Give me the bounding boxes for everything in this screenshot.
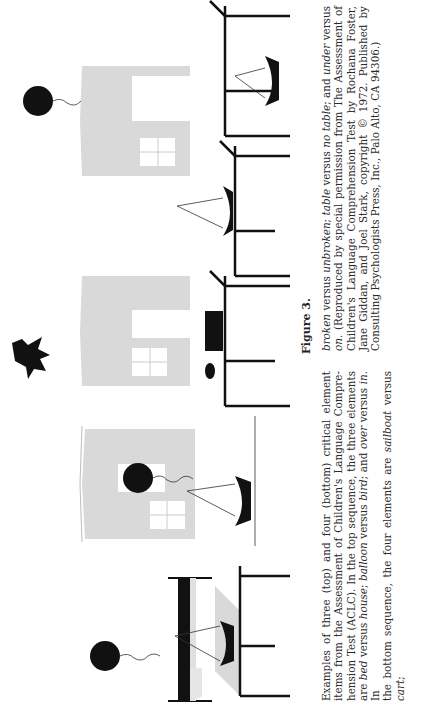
caption-line: items from the Assessment of Children's …	[332, 371, 344, 701]
caption-line: broken versus unbroken; table versus no …	[320, 6, 332, 351]
sailboat-drawing	[195, 406, 295, 546]
house-with-bird-drawing	[0, 256, 200, 396]
sailboat-icon	[265, 56, 279, 106]
panel-balloon-over-house	[0, 6, 200, 186]
cart-icon	[205, 311, 223, 351]
house-with-balloon-over-drawing	[0, 6, 200, 186]
panel-balloon-and-bed	[30, 556, 200, 706]
caption-line: Consulting Psychologists Press, Inc., Pa…	[369, 6, 381, 351]
balloon-icon	[90, 641, 120, 671]
sailboat-icon	[223, 186, 233, 236]
caption-left-column: Examples of three (top) and four (bottom…	[320, 371, 406, 701]
sailboat-under-table-drawing	[195, 0, 295, 136]
figure-label: Figure 3.	[300, 298, 313, 354]
cart-wheel-icon	[205, 363, 215, 379]
caption-line: are bed versus house; balloon versus bir…	[357, 371, 382, 701]
sailboat-icon	[235, 476, 251, 526]
panel-sailboat-over-table	[195, 136, 295, 276]
caption-right-column: broken versus unbroken; table versus no …	[320, 6, 381, 351]
caption-line: Jane Giddan, and Joel Stark, copyright ©…	[357, 6, 369, 351]
balloon-icon	[123, 463, 153, 493]
panel-balloon-in-house	[0, 414, 200, 554]
caption-line: on. (Reproduced by special permission fr…	[332, 6, 344, 351]
bird-icon	[12, 337, 50, 379]
panel-sailboat-no-table	[195, 406, 295, 546]
document-page: Figure 3. Examples of three (top) and fo…	[0, 0, 424, 706]
house-door	[132, 76, 190, 121]
panel-cart-under-table	[195, 266, 295, 406]
balloon-icon	[23, 86, 53, 116]
house-door	[132, 310, 190, 338]
caption-line: Examples of three (top) and four (bottom…	[320, 371, 332, 701]
cart-under-table-drawing	[195, 266, 295, 406]
sailboat-over-table-drawing	[195, 136, 295, 276]
panel-bird-over-house	[0, 256, 200, 396]
house-with-balloon-drawing	[0, 414, 200, 554]
panel-sailboat-on-table	[195, 556, 295, 706]
balloon-bed-drawing	[30, 556, 200, 706]
caption-line: Children's Language Comprehension Test b…	[345, 6, 357, 351]
panel-sailboat-under-table	[195, 0, 295, 136]
caption-line: the bottom sequence, the four elements a…	[381, 371, 406, 701]
sailboat-on-table-drawing	[195, 556, 295, 706]
caption-line: hension Test (ACLC). In the top sequence…	[345, 371, 357, 701]
